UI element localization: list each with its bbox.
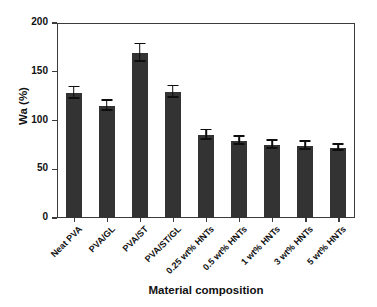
error-bar-cap-top xyxy=(234,135,245,137)
y-tick-label: 0 xyxy=(42,211,48,222)
y-tick-label: 100 xyxy=(31,114,48,125)
bar-group xyxy=(189,23,222,218)
x-tick-mark xyxy=(239,218,240,222)
bar-group xyxy=(322,23,355,218)
bar-group xyxy=(156,23,189,218)
error-bar-cap-bottom xyxy=(234,143,245,145)
bar-group xyxy=(123,23,156,218)
error-bar-cap-top xyxy=(101,99,112,101)
error-bar-cap-top xyxy=(333,143,344,145)
bar-group xyxy=(57,23,90,218)
bar-group xyxy=(289,23,322,218)
bar xyxy=(165,92,181,218)
x-tick-mark xyxy=(173,218,174,222)
bar-chart-figure: Wa (%) 050100150200 Neat PVAPVA/GLPVA/ST… xyxy=(0,0,377,307)
error-bar-cap-bottom xyxy=(333,149,344,151)
y-tick-label: 200 xyxy=(31,16,48,27)
y-axis-title: Wa (%) xyxy=(17,66,29,146)
error-bar-cap-bottom xyxy=(101,109,112,111)
error-bar-cap-top xyxy=(267,139,278,141)
x-tick-mark xyxy=(107,218,108,222)
x-tick-mark xyxy=(74,218,75,222)
error-bar-cap-bottom xyxy=(300,148,311,150)
error-bar-cap-top xyxy=(68,86,79,88)
bar xyxy=(66,93,82,218)
x-tick-mark xyxy=(206,218,207,222)
error-bar-cap-bottom xyxy=(68,97,79,99)
error-bar-cap-top xyxy=(200,129,211,131)
x-tick-label-text: PVA/GL xyxy=(86,224,116,254)
bar-group xyxy=(90,23,123,218)
x-tick-label-text: Neat PVA xyxy=(48,224,83,259)
error-bar-cap-top xyxy=(300,140,311,142)
y-tick-label: 150 xyxy=(31,65,48,76)
x-tick-mark xyxy=(305,218,306,222)
x-axis-title: Material composition xyxy=(57,284,355,296)
y-tick-label: 50 xyxy=(37,162,48,173)
x-tick-mark xyxy=(272,218,273,222)
error-bar-cap-bottom xyxy=(200,138,211,140)
x-tick-mark xyxy=(140,218,141,222)
bar xyxy=(132,53,148,218)
error-bar-line xyxy=(139,44,141,62)
error-bar-cap-bottom xyxy=(167,96,178,98)
error-bar-cap-bottom xyxy=(134,60,145,62)
error-bar-cap-bottom xyxy=(267,147,278,149)
x-tick-label-text: PVA/ST xyxy=(120,224,150,254)
error-bar-cap-top xyxy=(167,85,178,87)
error-bar-cap-top xyxy=(134,43,145,45)
x-tick-mark xyxy=(338,218,339,222)
